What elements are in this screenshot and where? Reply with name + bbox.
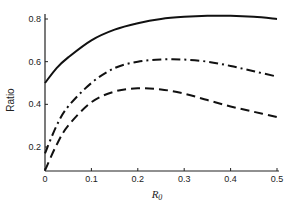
y-tick-label: 0.6 — [28, 57, 41, 67]
x-tick-label: 0.1 — [85, 174, 98, 184]
x-tick-label: 0.3 — [178, 174, 191, 184]
x-tick-label: 0.2 — [132, 174, 145, 184]
x-tick-label: 0.5 — [271, 174, 284, 184]
axes: 00.10.20.30.40.50.20.40.60.8 — [28, 14, 283, 184]
series-line-solid — [45, 16, 277, 83]
x-tick-label: 0.4 — [224, 174, 237, 184]
chart-canvas: 00.10.20.30.40.50.20.40.60.8 Ratio R0 — [0, 0, 294, 206]
y-axis-title: Ratio — [5, 88, 16, 112]
line-chart: 00.10.20.30.40.50.20.40.60.8 Ratio R0 — [0, 0, 294, 206]
y-tick-label: 0.4 — [28, 99, 41, 109]
x-tick-label: 0 — [42, 174, 47, 184]
series-lines — [45, 16, 277, 171]
x-axis-title: R0 — [151, 188, 163, 202]
y-tick-label: 0.8 — [28, 14, 41, 24]
series-line-dash-dot — [45, 59, 277, 153]
series-line-dashed — [45, 88, 277, 170]
y-tick-label: 0.2 — [28, 142, 41, 152]
